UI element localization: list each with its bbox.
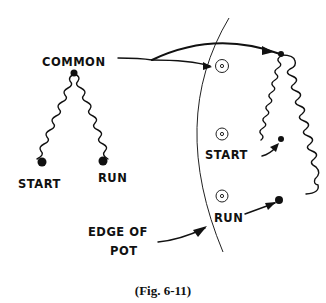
wiring-diagram: COMMON START RUN START RUN EDGE OF POT (… [0, 0, 326, 303]
arrowhead-icon [193, 226, 207, 237]
start-node-right [278, 136, 284, 142]
common-terminal [216, 60, 229, 73]
common-lead-line [118, 58, 152, 60]
start-winding-right [260, 56, 281, 140]
common-to-terminal-line [152, 60, 210, 66]
start-terminal-node [38, 158, 47, 167]
right-start-label: START [205, 148, 248, 162]
run-winding [75, 74, 108, 159]
start-terminal [216, 128, 228, 140]
left-run-label: RUN [98, 171, 127, 185]
run-winding-right [282, 55, 319, 194]
run-terminal-node [99, 157, 108, 166]
left-start-label: START [18, 177, 61, 191]
common-label: COMMON [42, 55, 106, 69]
run-node-right [275, 196, 283, 204]
arrowhead-icon [265, 202, 276, 210]
figure-caption: (Fig. 6-11) [135, 283, 191, 298]
start-winding [37, 74, 74, 159]
edge-of-pot-label: EDGE OF [88, 225, 148, 239]
pot-label: POT [110, 244, 138, 258]
right-run-label: RUN [214, 211, 243, 225]
run-terminal [216, 190, 228, 202]
common-to-winding-line [152, 43, 280, 60]
